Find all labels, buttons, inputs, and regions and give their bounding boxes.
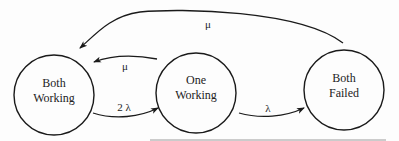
state-both-failed-line2: Failed [329, 86, 359, 100]
state-both-working: Both Working [14, 55, 94, 135]
state-both-working-line2: Working [33, 91, 75, 105]
state-one-working: One Working [156, 53, 236, 133]
state-both-failed: Both Failed [304, 50, 384, 130]
state-both-failed-line1: Both [332, 71, 355, 85]
transition-label-2lambda: 2 λ [117, 101, 131, 113]
state-one-working-line2: Working [175, 88, 217, 102]
transition-one-to-both-failed: λ [239, 102, 304, 116]
diagram-canvas: Both Working One Working Both Failed μ μ… [0, 0, 399, 141]
transition-label-lambda: λ [265, 102, 271, 114]
state-diagram: Both Working One Working Both Failed μ μ… [0, 0, 399, 141]
state-one-working-line1: One [186, 73, 206, 87]
transition-label-mu-middle: μ [122, 60, 128, 72]
transition-label-mu-top: μ [205, 18, 211, 30]
transition-one-to-both-working: μ [94, 56, 157, 72]
transition-both-working-to-one: 2 λ [93, 101, 158, 117]
state-both-working-line1: Both [42, 76, 65, 90]
transition-failed-to-both-working: μ [80, 10, 343, 48]
